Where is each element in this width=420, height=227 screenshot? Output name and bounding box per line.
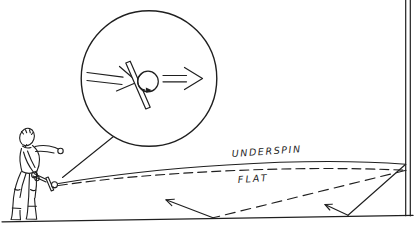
magnifier-inset (63, 11, 217, 178)
underspin-label: UNDERSPIN (231, 143, 302, 159)
player-legs (11, 172, 37, 220)
underspin-trajectory-line (59, 162, 406, 184)
right-boot (26, 198, 37, 220)
player-figure (11, 126, 63, 219)
player-chest (20, 149, 22, 172)
diagram-canvas: UNDERSPIN FLAT (0, 0, 420, 227)
flat-bounce-shaft (166, 200, 213, 218)
underspin-bounce-shaft (325, 205, 348, 216)
flat-bounce-arrow-icon (166, 199, 213, 218)
trajectories (59, 162, 407, 186)
instructional-diagram: UNDERSPIN FLAT (0, 0, 420, 227)
underspin-bounce-arrow-icon (325, 204, 348, 215)
ball (52, 182, 58, 188)
extended-arm-lines (35, 145, 61, 153)
knee-lines (15, 189, 36, 191)
flat-label: FLAT (237, 172, 269, 185)
magnifier-pointer-line (63, 137, 114, 178)
player-back (33, 146, 40, 172)
player-extended-arm (35, 145, 63, 153)
player-fist (58, 148, 63, 153)
floor-line (2, 215, 413, 221)
left-leg-lines (13, 172, 27, 211)
